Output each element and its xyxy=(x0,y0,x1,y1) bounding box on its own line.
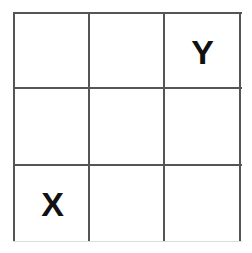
cell-r0-c2: Y xyxy=(165,14,240,90)
cell-r2-c0: X xyxy=(15,166,90,242)
tic-tac-grid: Y X xyxy=(13,12,240,241)
